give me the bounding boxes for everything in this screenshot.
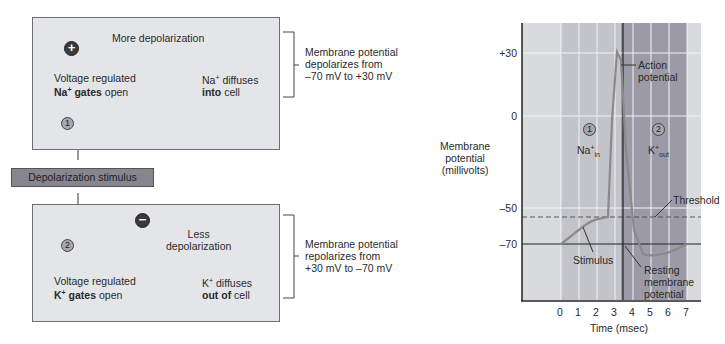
x-tick-2: 2 (589, 306, 603, 318)
y-axis-title-line3: (millivolts) (442, 164, 489, 176)
k-diffuses-label: K+ diffuses out of cell (202, 275, 252, 301)
na-in-charge: + (590, 144, 594, 151)
step-2-badge: 2 (61, 239, 74, 252)
repol-line1: Membrane potential (305, 238, 398, 250)
depolarization-text: depolarization (166, 240, 231, 252)
repol-line2: repolarizes from (305, 250, 380, 262)
na-ion: Na (54, 86, 67, 98)
depolarization-stimulus-bar: Depolarization stimulus (11, 168, 154, 187)
diffuses-text: diffuses (220, 74, 259, 86)
x-tick-0: 0 (553, 306, 567, 318)
k-diffuses-text: diffuses (213, 277, 252, 289)
k-out-sub: out (659, 151, 669, 158)
y-tick-minus70: –70 (477, 238, 517, 250)
resting-text: Resting (644, 264, 680, 276)
step-1-badge: 1 (61, 117, 74, 130)
region-2-badge: 2 (652, 123, 665, 136)
stimulus-label: Stimulus (573, 254, 613, 266)
potential-text: potential (638, 71, 678, 83)
y-tick-minus50: –50 (477, 202, 517, 214)
repolarization-box (32, 204, 280, 322)
y-tick-plus30: +30 (477, 47, 517, 59)
x-tick-1: 1 (571, 306, 585, 318)
cell-text: cell (221, 86, 240, 98)
k-gates-bold: gates (69, 289, 96, 301)
x-tick-6: 6 (661, 306, 675, 318)
k-cell-text: cell (231, 289, 250, 301)
k-diffuse-ion: K (202, 277, 209, 289)
top-bracket (283, 32, 299, 97)
na-gates-line1: Voltage regulated (54, 72, 136, 84)
threshold-label: Threshold (673, 194, 720, 206)
repol-line3: +30 mV to –70 mV (305, 262, 392, 274)
open-text: open (102, 86, 128, 98)
less-text: Less (188, 228, 210, 240)
depol-line3: –70 mV to +30 mV (305, 70, 392, 82)
depol-line2: depolarizes from (305, 58, 383, 70)
k-out-charge: + (655, 144, 659, 151)
minus-icon: − (135, 213, 150, 228)
na-in-ion: Na (577, 144, 590, 156)
x-axis-title: Time (msec) (590, 322, 648, 334)
membrane-text: membrane (644, 276, 694, 288)
x-tick-5: 5 (643, 306, 657, 318)
x-tick-4: 4 (625, 306, 639, 318)
out-of-bold: out of (202, 289, 231, 301)
resting-potential-text: potential (644, 288, 684, 300)
bottom-bracket (283, 215, 299, 298)
depol-line1: Membrane potential (305, 46, 398, 58)
x-tick-3: 3 (607, 306, 621, 318)
k-out-ion: K (648, 144, 655, 156)
na-in-sub: in (595, 151, 600, 158)
na-in-label: Na+in (577, 142, 600, 161)
plus-icon: + (64, 41, 79, 56)
k-charge: + (62, 289, 66, 296)
region-1-badge: 1 (583, 123, 596, 136)
less-depolarization-label: Less depolarization (166, 228, 231, 252)
na-gates-label: Voltage regulated Na+ gates open (54, 72, 136, 98)
into-bold: into (202, 86, 221, 98)
na-diffuses-label: Na+ diffuses into cell (202, 72, 258, 98)
na-diffuse-ion: Na (202, 74, 215, 86)
k-ion: K (54, 289, 62, 301)
y-tick-0: 0 (477, 110, 517, 122)
more-depolarization-label: More depolarization (112, 32, 204, 44)
na-charge: + (67, 86, 71, 93)
action-text: Action (638, 59, 667, 71)
depolarizes-description: Membrane potential depolarizes from –70 … (305, 46, 398, 82)
k-gates-line1: Voltage regulated (54, 275, 136, 287)
x-tick-7: 7 (679, 306, 693, 318)
resting-membrane-potential-label: Resting membrane potential (644, 264, 694, 300)
repolarizes-description: Membrane potential repolarizes from +30 … (305, 238, 398, 274)
y-axis-title-line1: Membrane (440, 140, 490, 152)
y-axis-title-line2: potential (445, 152, 485, 164)
y-axis-title: Membrane potential (millivolts) (440, 140, 490, 176)
k-gates-label: Voltage regulated K+ gates open (54, 275, 136, 301)
k-out-label: K+out (648, 142, 669, 161)
gates-bold: gates (74, 86, 101, 98)
action-potential-label: Action potential (638, 59, 678, 83)
k-open-text: open (96, 289, 122, 301)
